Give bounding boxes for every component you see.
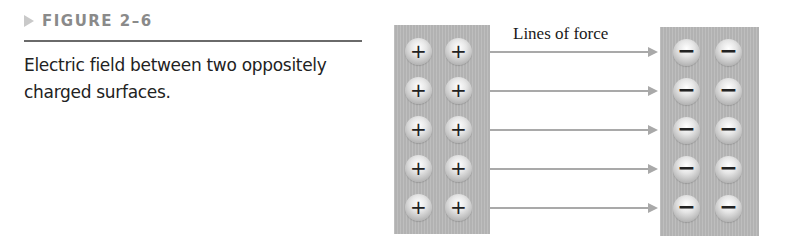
plus-icon: + xyxy=(410,119,427,139)
negative-charge: − xyxy=(715,156,742,183)
field-line-arrow-icon xyxy=(490,90,656,92)
plus-icon: + xyxy=(410,158,427,178)
field-line-arrow-icon xyxy=(490,168,656,170)
plus-icon: + xyxy=(450,119,467,139)
minus-icon: − xyxy=(719,40,737,62)
triangle-marker-icon xyxy=(24,15,34,27)
plus-icon: + xyxy=(410,197,427,217)
positive-charge: + xyxy=(405,77,432,104)
positive-charge: + xyxy=(405,38,432,65)
plus-icon: + xyxy=(410,41,427,61)
minus-icon: − xyxy=(677,79,695,101)
plus-icon: + xyxy=(450,158,467,178)
minus-icon: − xyxy=(719,196,737,218)
minus-icon: − xyxy=(719,157,737,179)
plus-icon: + xyxy=(450,197,467,217)
positive-charge: + xyxy=(445,38,472,65)
positive-charge: + xyxy=(445,77,472,104)
minus-icon: − xyxy=(719,79,737,101)
negative-charge: − xyxy=(715,195,742,222)
positive-charge: + xyxy=(405,194,432,221)
negative-charge: − xyxy=(673,156,700,183)
negative-charge: − xyxy=(673,39,700,66)
positive-charge: + xyxy=(445,155,472,182)
field-line-arrow-icon xyxy=(490,51,656,53)
figure-caption: FIGURE 2–6 Electric field between two op… xyxy=(24,8,362,106)
positive-charge: + xyxy=(405,155,432,182)
minus-icon: − xyxy=(677,196,695,218)
plus-icon: + xyxy=(410,80,427,100)
negative-charge: − xyxy=(673,117,700,144)
field-line-arrow-icon xyxy=(490,207,656,209)
figure-label: FIGURE 2–6 xyxy=(24,8,362,34)
divider xyxy=(24,40,362,42)
plus-icon: + xyxy=(450,41,467,61)
negative-charge: − xyxy=(673,78,700,105)
figure-number: FIGURE 2–6 xyxy=(42,12,153,30)
negative-charge: − xyxy=(715,117,742,144)
positive-charge: + xyxy=(445,194,472,221)
minus-icon: − xyxy=(677,40,695,62)
minus-icon: − xyxy=(677,157,695,179)
negative-charge: − xyxy=(673,195,700,222)
minus-icon: − xyxy=(719,118,737,140)
lines-of-force-label: Lines of force xyxy=(513,24,608,44)
caption-text: Electric field between two oppositely ch… xyxy=(24,52,362,106)
minus-icon: − xyxy=(677,118,695,140)
negative-charge: − xyxy=(715,39,742,66)
positive-charge: + xyxy=(445,116,472,143)
negative-charge: − xyxy=(715,78,742,105)
field-line-arrow-icon xyxy=(490,129,656,131)
plus-icon: + xyxy=(450,80,467,100)
positive-charge: + xyxy=(405,116,432,143)
